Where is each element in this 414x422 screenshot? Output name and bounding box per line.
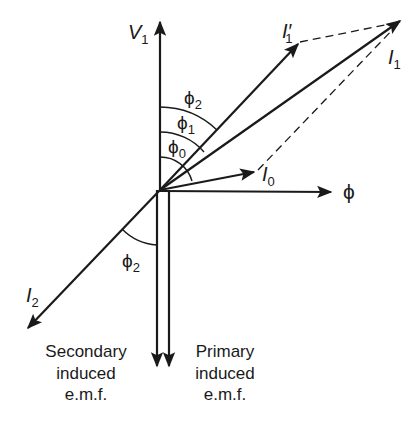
phi2-lower-arc — [122, 229, 157, 245]
i1-prime-label: I′1 — [282, 20, 293, 46]
secondary-emf-caption: Secondary induced e.m.f. — [45, 342, 127, 404]
i0-label: I0 — [262, 163, 275, 189]
phi2-lower-label: ϕ2 — [122, 250, 140, 275]
i2-phasor — [28, 190, 160, 328]
svg-text:e.m.f.: e.m.f. — [65, 385, 108, 404]
svg-text:Primary: Primary — [196, 342, 255, 361]
phi1-label: ϕ1 — [177, 112, 195, 137]
phi2-upper-label: ϕ2 — [184, 87, 202, 112]
svg-text:induced: induced — [56, 364, 116, 383]
svg-text:induced: induced — [195, 364, 255, 383]
construction-line-right — [258, 24, 398, 170]
v1-label: V1 — [128, 21, 149, 47]
phasor-diagram: V1 I′1 I1 I0 ϕ I2 ϕ2 ϕ1 ϕ0 ϕ2 Secondary … — [0, 0, 414, 422]
flux-label: ϕ — [343, 180, 355, 203]
flux-phasor — [160, 191, 331, 192]
phi0-label: ϕ0 — [168, 136, 186, 161]
svg-text:e.m.f.: e.m.f. — [204, 385, 247, 404]
svg-text:Secondary: Secondary — [45, 342, 127, 361]
i2-label: I2 — [26, 284, 39, 310]
i1-label: I1 — [388, 46, 401, 72]
primary-emf-caption: Primary induced e.m.f. — [195, 342, 255, 404]
